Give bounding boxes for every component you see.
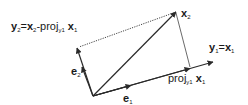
label-e2: e2: [71, 66, 80, 78]
label-projection: projy1 x1: [168, 73, 205, 85]
label-y2-definition: y2=x2-projy1 x1: [11, 21, 77, 33]
guide-x2-to-y2: [79, 12, 176, 47]
label-y1-equals-x1: y1=x1: [209, 42, 234, 54]
label-x2: x2: [181, 8, 190, 20]
label-e1: e1: [123, 93, 132, 105]
vector-x2: [93, 12, 176, 96]
vector-e2: [82, 67, 93, 96]
guide-x2-to-proj: [176, 13, 190, 67]
